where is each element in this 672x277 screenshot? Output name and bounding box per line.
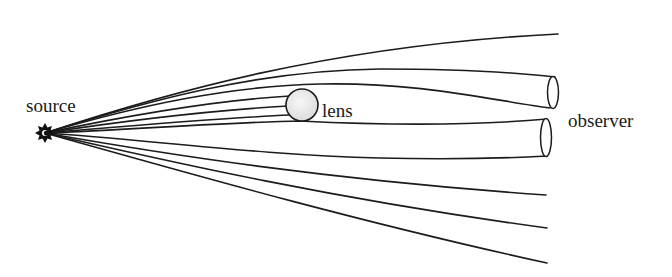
diagram-svg: source lens observer: [0, 0, 672, 277]
lens-sphere: [286, 89, 318, 121]
observer-image-lower: [541, 119, 552, 157]
source-label: source: [26, 95, 76, 116]
source-star-icon: [35, 123, 55, 143]
ray-lens-3: [45, 115, 290, 133]
ray-lower-3: [45, 133, 547, 263]
ray-lower-1: [45, 133, 546, 195]
observer-image-upper: [548, 77, 559, 109]
ray-lower-2: [45, 133, 547, 228]
observer-label: observer: [568, 110, 634, 131]
light-rays: [45, 34, 558, 263]
lensing-diagram: source lens observer: [0, 0, 672, 277]
lens-label: lens: [322, 100, 353, 121]
